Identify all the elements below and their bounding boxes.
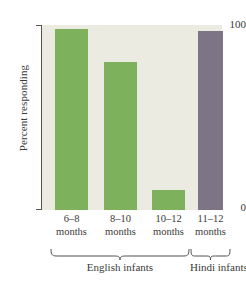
- x-category-label-3-line2: months: [188, 226, 234, 239]
- x-category-label-2-line2: months: [146, 226, 192, 239]
- bar-chart-figure: Percent responding 100 0 6–8 months 8–10…: [0, 0, 246, 288]
- group-label-english: English infants: [50, 261, 190, 273]
- group-bracket-hindi: Hindi infants: [190, 248, 231, 261]
- x-category-label-1: 8–10 months: [98, 213, 144, 238]
- x-category-label-1-line2: months: [98, 226, 144, 239]
- group-label-hindi: Hindi infants: [190, 261, 231, 273]
- plot-area: [42, 25, 222, 210]
- x-category-label-1-line1: 8–10: [98, 213, 144, 226]
- x-category-label-2: 10–12 months: [146, 213, 192, 238]
- x-category-label-0: 6–8 months: [49, 213, 95, 238]
- bar-6-8-months: [55, 29, 88, 210]
- x-category-label-3: 11–12 months: [188, 213, 234, 238]
- bar-10-12-months: [152, 190, 185, 210]
- bar-11-12-months-hindi: [198, 31, 223, 210]
- curly-brace-icon: [50, 248, 190, 261]
- x-category-label-0-line1: 6–8: [49, 213, 95, 226]
- x-category-label-3-line1: 11–12: [188, 213, 234, 226]
- curly-brace-icon: [190, 248, 231, 261]
- x-category-label-0-line2: months: [49, 226, 95, 239]
- x-category-label-2-line1: 10–12: [146, 213, 192, 226]
- bar-8-10-months: [104, 62, 137, 210]
- y-axis-title: Percent responding: [17, 23, 29, 193]
- group-bracket-english: English infants: [50, 248, 190, 261]
